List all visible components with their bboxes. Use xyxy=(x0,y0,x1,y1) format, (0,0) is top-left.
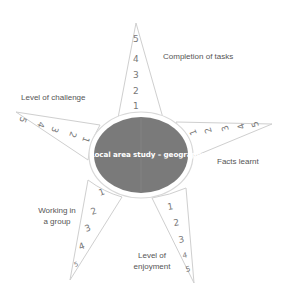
scale-number: 5 xyxy=(133,34,139,44)
scale-number: 2 xyxy=(133,86,139,96)
label-line: Working in xyxy=(36,205,78,216)
star-diagram: 5 4 3 2 1 5 4 3 2 1 1 2 3 4 5 1 2 3 4 xyxy=(0,0,282,301)
label-completion-of-tasks: Completion of tasks xyxy=(163,51,233,62)
label-level-of-challenge: Level of challenge xyxy=(21,92,86,103)
label-level-of-enjoyment: Level of enjoyment xyxy=(130,250,174,272)
hub-label: Local area study – geography xyxy=(90,150,206,159)
scale-number: 3 xyxy=(133,70,139,80)
label-line: a group xyxy=(36,216,78,227)
label-working-in-a-group: Working in a group xyxy=(36,205,78,227)
spike-completion-of-tasks xyxy=(118,23,163,118)
scale-number: 4 xyxy=(133,54,139,64)
scale-number: 1 xyxy=(133,101,139,111)
label-facts-learnt: Facts learnt xyxy=(217,156,259,167)
label-line: Level of xyxy=(130,250,174,261)
label-line: enjoyment xyxy=(130,261,174,272)
